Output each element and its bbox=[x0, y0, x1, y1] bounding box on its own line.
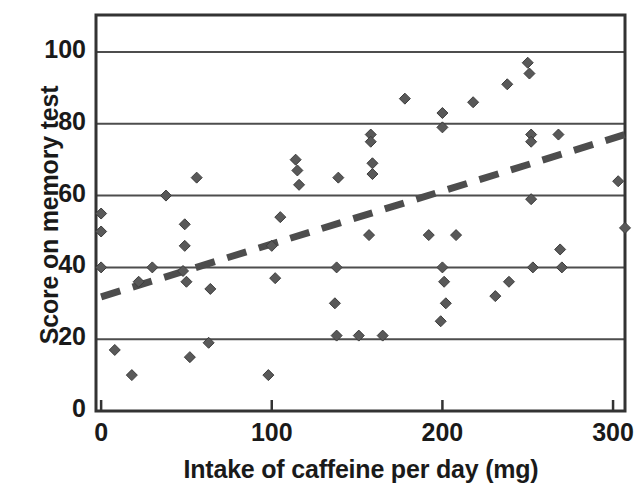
data-point bbox=[109, 344, 120, 355]
data-point bbox=[439, 276, 450, 287]
x-axis-ticks bbox=[101, 400, 613, 411]
plot-area bbox=[0, 0, 644, 496]
data-point bbox=[423, 230, 434, 241]
data-point bbox=[275, 212, 286, 223]
data-point bbox=[440, 298, 451, 309]
data-point bbox=[179, 240, 190, 251]
data-point bbox=[270, 273, 281, 284]
data-point bbox=[503, 276, 514, 287]
data-point bbox=[294, 179, 305, 190]
data-point bbox=[399, 93, 410, 104]
data-point bbox=[522, 57, 533, 68]
data-point bbox=[620, 222, 631, 233]
data-point bbox=[365, 136, 376, 147]
data-point bbox=[435, 316, 446, 327]
data-point bbox=[263, 370, 274, 381]
data-point bbox=[290, 154, 301, 165]
data-point bbox=[364, 230, 375, 241]
data-point bbox=[331, 262, 342, 273]
scatter-chart-figure: Score on memory test Intake of caffeine … bbox=[0, 0, 644, 496]
data-point bbox=[451, 230, 462, 241]
gridlines bbox=[96, 52, 625, 339]
data-point bbox=[179, 219, 190, 230]
data-point bbox=[367, 158, 378, 169]
data-point bbox=[526, 136, 537, 147]
data-point bbox=[556, 262, 567, 273]
data-point bbox=[613, 176, 624, 187]
data-point bbox=[502, 79, 513, 90]
data-point bbox=[160, 190, 171, 201]
data-point bbox=[524, 68, 535, 79]
data-point bbox=[205, 283, 216, 294]
data-point bbox=[437, 262, 448, 273]
data-point bbox=[553, 129, 564, 140]
data-point bbox=[126, 370, 137, 381]
data-point bbox=[555, 244, 566, 255]
data-point bbox=[490, 291, 501, 302]
data-point bbox=[181, 276, 192, 287]
data-point bbox=[468, 97, 479, 108]
data-point bbox=[329, 298, 340, 309]
data-point bbox=[333, 172, 344, 183]
data-point bbox=[184, 352, 195, 363]
data-point bbox=[527, 262, 538, 273]
data-point bbox=[147, 262, 158, 273]
data-point bbox=[191, 172, 202, 183]
data-point bbox=[292, 165, 303, 176]
data-point bbox=[367, 169, 378, 180]
data-point bbox=[437, 108, 448, 119]
